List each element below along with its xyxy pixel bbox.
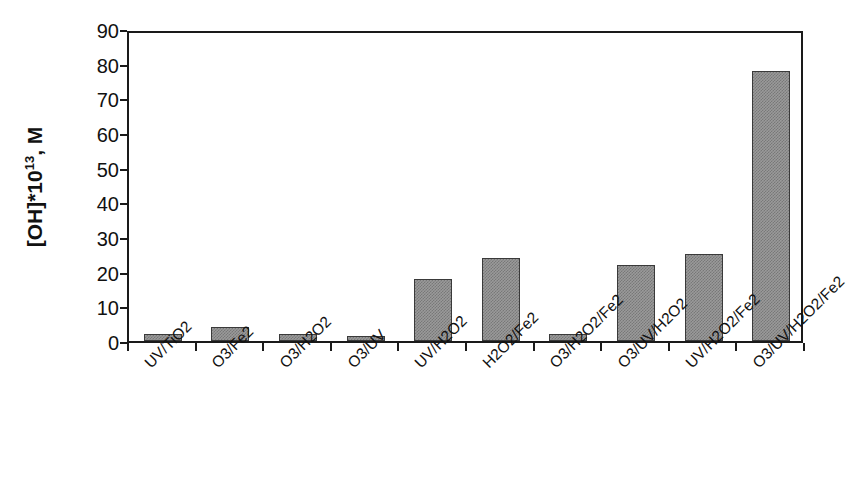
y-tick-label: 20 bbox=[75, 262, 119, 285]
y-tick-label: 60 bbox=[75, 124, 119, 147]
y-tick-mark bbox=[120, 307, 127, 309]
y-tick-label: 10 bbox=[75, 297, 119, 320]
y-tick-mark bbox=[120, 134, 127, 136]
y-tick-label: 30 bbox=[75, 228, 119, 251]
y-axis-title-suffix: , M bbox=[23, 127, 46, 156]
y-tick-label: 40 bbox=[75, 193, 119, 216]
y-tick-mark bbox=[120, 169, 127, 171]
y-tick-mark bbox=[120, 30, 127, 32]
y-axis-title: [OH]*1013, M bbox=[18, 31, 52, 343]
y-tick-mark bbox=[120, 99, 127, 101]
x-tick-mark bbox=[262, 343, 264, 351]
y-axis-title-base: [OH]*10 bbox=[23, 170, 46, 247]
y-tick-mark bbox=[120, 203, 127, 205]
plot-area bbox=[127, 31, 803, 343]
x-tick-mark bbox=[533, 343, 535, 351]
x-tick-mark bbox=[127, 343, 129, 351]
x-tick-mark bbox=[600, 343, 602, 351]
y-tick-label: 70 bbox=[75, 89, 119, 112]
x-tick-mark bbox=[668, 343, 670, 351]
y-tick-mark bbox=[120, 65, 127, 67]
y-tick-mark bbox=[120, 342, 127, 344]
x-tick-mark bbox=[330, 343, 332, 351]
y-tick-mark bbox=[120, 273, 127, 275]
y-tick-label: 50 bbox=[75, 158, 119, 181]
y-tick-label: 0 bbox=[75, 332, 119, 355]
x-tick-mark bbox=[465, 343, 467, 351]
x-tick-mark bbox=[735, 343, 737, 351]
x-tick-mark bbox=[397, 343, 399, 351]
y-tick-mark bbox=[120, 238, 127, 240]
y-axis-title-exponent: 13 bbox=[22, 156, 37, 170]
x-tick-mark bbox=[195, 343, 197, 351]
x-tick-mark bbox=[803, 343, 805, 351]
y-tick-label: 90 bbox=[75, 20, 119, 43]
y-tick-label: 80 bbox=[75, 54, 119, 77]
